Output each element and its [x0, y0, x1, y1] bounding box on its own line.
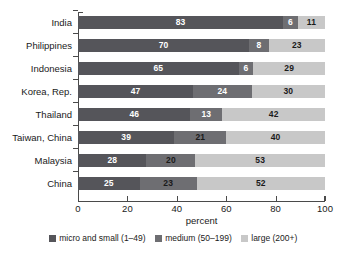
- bar-segment[interactable]: 25: [78, 177, 140, 190]
- bar-value-label: 6: [244, 62, 249, 75]
- bar-value-label: 8: [257, 39, 262, 52]
- bar-value-label: 20: [166, 154, 176, 167]
- table-row: 83611: [78, 16, 325, 29]
- bar-segment[interactable]: 23: [269, 39, 325, 52]
- bar-segment[interactable]: 8: [249, 39, 269, 52]
- legend-label: large (200+): [251, 233, 297, 243]
- legend-item[interactable]: micro and small (1–49): [49, 233, 146, 243]
- table-row: 461342: [78, 108, 325, 121]
- bar-value-label: 83: [176, 16, 186, 29]
- bar-value-label: 39: [121, 131, 131, 144]
- stacked-bar[interactable]: 472430: [78, 85, 325, 98]
- stacked-bar[interactable]: 83611: [78, 16, 325, 29]
- x-axis-tick: [325, 196, 326, 201]
- table-row: 70823: [78, 39, 325, 52]
- bar-segment[interactable]: 13: [190, 108, 222, 121]
- bar-segment[interactable]: 21: [174, 131, 226, 144]
- bar-value-label: 46: [129, 108, 139, 121]
- y-axis-tick: [73, 33, 78, 34]
- y-axis-tick: [73, 148, 78, 149]
- y-axis-tick: [73, 10, 78, 11]
- legend-item[interactable]: medium (50–199): [155, 233, 232, 243]
- stacked-bar[interactable]: 70823: [78, 39, 325, 52]
- bar-value-label: 47: [131, 85, 141, 98]
- bar-value-label: 23: [292, 39, 302, 52]
- legend-swatch-icon: [241, 235, 248, 242]
- chart-legend: micro and small (1–49)medium (50–199)lar…: [0, 233, 346, 243]
- y-axis-tick: [73, 171, 78, 172]
- x-axis-tick: [276, 196, 277, 201]
- bar-value-label: 6: [288, 16, 293, 29]
- y-axis-tick: [73, 102, 78, 103]
- bar-value-label: 52: [256, 177, 266, 190]
- bar-segment[interactable]: 70: [78, 39, 249, 52]
- stacked-bar[interactable]: 252352: [78, 177, 325, 190]
- x-axis-tick: [127, 196, 128, 201]
- table-row: 282053: [78, 154, 325, 167]
- bar-segment[interactable]: 39: [78, 131, 174, 144]
- x-axis-tick: [177, 196, 178, 201]
- legend-swatch-icon: [49, 235, 56, 242]
- bar-value-label: 13: [202, 108, 212, 121]
- x-axis-tick-label: 80: [256, 203, 296, 214]
- bar-value-label: 40: [271, 131, 281, 144]
- y-axis-tick: [73, 56, 78, 57]
- bar-segment[interactable]: 40: [226, 131, 325, 144]
- bar-segment[interactable]: 52: [197, 177, 325, 190]
- stacked-bar[interactable]: 392140: [78, 131, 325, 144]
- table-row: 252352: [78, 177, 325, 190]
- x-axis-tick-label: 100: [305, 203, 345, 214]
- y-axis-tick: [73, 125, 78, 126]
- bar-value-label: 25: [104, 177, 114, 190]
- x-axis-tick-label: 40: [157, 203, 197, 214]
- category-label: Taiwan, China: [0, 131, 72, 144]
- x-axis-tick-label: 0: [58, 203, 98, 214]
- bar-segment[interactable]: 42: [222, 108, 325, 121]
- table-row: 472430: [78, 85, 325, 98]
- legend-item[interactable]: large (200+): [241, 233, 298, 243]
- bar-segment[interactable]: 65: [78, 62, 239, 75]
- table-row: 65629: [78, 62, 325, 75]
- bar-value-label: 21: [195, 131, 205, 144]
- bar-value-label: 24: [217, 85, 227, 98]
- legend-swatch-icon: [155, 235, 162, 242]
- bar-segment[interactable]: 6: [283, 16, 298, 29]
- category-label: Korea, Rep.: [0, 85, 72, 98]
- stacked-bar[interactable]: 65629: [78, 62, 325, 75]
- x-axis-tick: [226, 196, 227, 201]
- bar-segment[interactable]: 24: [193, 85, 252, 98]
- category-label: Thailand: [0, 108, 72, 121]
- category-label: Philippines: [0, 39, 72, 52]
- bar-segment[interactable]: 29: [253, 62, 325, 75]
- category-label: Malaysia: [0, 154, 72, 167]
- bar-segment[interactable]: 11: [298, 16, 325, 29]
- y-axis-tick: [73, 79, 78, 80]
- x-axis-title: percent: [78, 215, 325, 226]
- bar-segment[interactable]: 83: [78, 16, 283, 29]
- bar-segment[interactable]: 20: [146, 154, 195, 167]
- stacked-bar[interactable]: 282053: [78, 154, 325, 167]
- bar-segment[interactable]: 6: [239, 62, 254, 75]
- x-axis-tick-label: 60: [206, 203, 246, 214]
- bar-segment[interactable]: 23: [140, 177, 197, 190]
- legend-label: medium (50–199): [165, 233, 232, 243]
- bar-segment[interactable]: 53: [195, 154, 325, 167]
- table-row: 392140: [78, 131, 325, 144]
- stacked-bar-chart: India83611Philippines70823Indonesia65629…: [0, 0, 346, 256]
- bar-value-label: 70: [159, 39, 169, 52]
- stacked-bar[interactable]: 461342: [78, 108, 325, 121]
- legend-label: micro and small (1–49): [59, 233, 145, 243]
- x-axis-line: [78, 201, 325, 202]
- bar-value-label: 23: [163, 177, 173, 190]
- bar-segment[interactable]: 47: [78, 85, 193, 98]
- bar-value-label: 42: [269, 108, 279, 121]
- bar-segment[interactable]: 28: [78, 154, 146, 167]
- category-label: Indonesia: [0, 62, 72, 75]
- bar-value-label: 11: [307, 16, 316, 29]
- x-axis-tick: [78, 196, 79, 201]
- bar-segment[interactable]: 46: [78, 108, 190, 121]
- bar-value-label: 53: [255, 154, 265, 167]
- bar-value-label: 30: [283, 85, 293, 98]
- bar-segment[interactable]: 30: [252, 85, 325, 98]
- bar-value-label: 28: [107, 154, 117, 167]
